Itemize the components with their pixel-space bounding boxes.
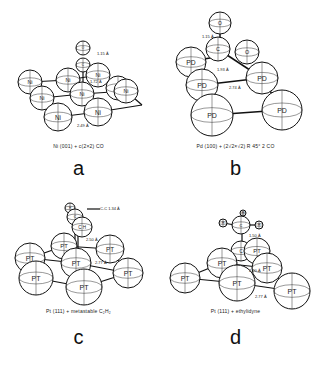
adsorbate-atom: C	[206, 37, 230, 61]
surface-atom: PT	[96, 235, 124, 263]
atom-label: PT	[80, 284, 90, 291]
atom-label: PD	[277, 107, 287, 114]
atom-label: O	[218, 21, 222, 26]
caption-d: Pt (111) + ethylidyne	[157, 308, 314, 314]
atoms-c: HCC HPTPTPTPTPTPTPT	[15, 203, 143, 305]
surface-atom: Ni	[84, 98, 112, 126]
distance-label: C-C 1.34 Å	[100, 206, 120, 211]
distance-label: 1.72 Å	[90, 79, 102, 84]
atom-label: Ni	[95, 72, 100, 78]
surface-atom: PT	[66, 269, 102, 305]
surface-atom: PT	[274, 273, 310, 309]
surface-atom: Ni	[44, 103, 72, 131]
atom-label: H	[258, 223, 260, 227]
caption-a: Ni (001) + c(2×2) CO	[0, 143, 157, 149]
atom-label: C	[240, 223, 243, 228]
atom-label: H	[69, 206, 71, 210]
adsorbate-atom: H	[255, 221, 263, 229]
atom-label: Ni	[39, 95, 44, 101]
caption-c: Pt (111) + metastable C₂H₂	[0, 308, 157, 314]
adsorbate-atom: O	[235, 40, 259, 64]
atom-label: O	[245, 49, 249, 55]
atom-label: PT	[181, 275, 190, 282]
atom-label: H	[242, 211, 244, 215]
atom-label: C H	[78, 225, 86, 230]
structure-c: HCC HPTPTPTPTPTPTPT C-C 1.34 Å 2.50 Å 2.…	[0, 183, 157, 313]
panel-letter-b: b	[157, 157, 314, 180]
distance-label: 2.50 Å	[86, 237, 98, 242]
atoms-b: OCOPDPDPDPDPD	[176, 12, 302, 136]
distance-label: 2.77 Å	[95, 260, 107, 265]
panel-a: OCNiNiNiNiNiNiNiNiNi 1.15 Å 1.72 Å 2.49 …	[0, 0, 157, 183]
atom-label: PT	[263, 265, 272, 272]
distance-label: 1.15 Å	[202, 34, 214, 39]
surface-atom: PT	[19, 261, 53, 295]
distance-label: 2.74 Å	[229, 85, 241, 90]
surface-atom: PT	[113, 258, 143, 288]
atom-label: PT	[72, 260, 81, 267]
distance-label: 1.93 Å	[217, 67, 229, 72]
atom-label: PT	[32, 275, 42, 282]
atom-label: PT	[233, 280, 243, 287]
adsorbate-atom: H	[240, 210, 246, 216]
atom-label: Ni	[65, 77, 70, 83]
distance-label: 1.15 Å	[97, 51, 109, 56]
atom-label: PT	[60, 243, 68, 249]
structure-b: OCOPDPDPDPDPD 1.15 Å 1.93 Å 2.74 Å	[157, 0, 314, 130]
adsorbate-atom: C	[232, 216, 250, 234]
panel-letter-d: d	[157, 326, 314, 349]
adsorbate-atom: O	[76, 41, 90, 55]
surface-atom: PD	[191, 94, 233, 136]
atom-label: Ni	[55, 114, 61, 121]
caption-b: Pd (100) + (2√2×√2) R 45° 2 CO	[157, 143, 314, 149]
atom-label: H	[222, 221, 224, 225]
atom-label: Ni	[27, 79, 32, 85]
atom-label: PT	[106, 246, 114, 253]
panel-c: HCC HPTPTPTPTPTPTPT C-C 1.34 Å 2.50 Å 2.…	[0, 183, 157, 366]
adsorbate-atom: H	[219, 219, 227, 227]
atom-label: PT	[253, 248, 261, 254]
adsorbate-atom: C H	[72, 217, 92, 237]
structure-a: OCNiNiNiNiNiNiNiNiNi 1.15 Å 1.72 Å 2.49 …	[0, 0, 157, 130]
surface-atom: PD	[246, 62, 278, 94]
atoms-a: OCNiNiNiNiNiNiNiNiNi	[18, 41, 138, 131]
structure-d: HHHCCPTPTPTPTPTPT 1.50 Å 2.00 Å 2.77 Å	[157, 183, 314, 313]
panel-b: OCOPDPDPDPDPD 1.15 Å 1.93 Å 2.74 Å Pd (1…	[157, 0, 314, 183]
surface-atom: PT	[170, 263, 200, 293]
surface-atom: Ni	[114, 79, 138, 103]
distance-label: 2.00 Å	[249, 268, 261, 273]
atom-label: PD	[186, 59, 196, 66]
panel-letter-a: a	[0, 157, 157, 180]
surface-atom: PD	[262, 90, 302, 130]
adsorbate-atom: O	[209, 12, 231, 34]
distance-label: 2.49 Å	[77, 123, 89, 128]
panel-letter-c: c	[0, 326, 157, 349]
atom-label: Ni	[123, 88, 128, 94]
atom-label: PD	[197, 82, 207, 89]
atom-label: PD	[257, 75, 267, 82]
atom-label: PT	[26, 255, 35, 262]
distance-label: 2.77 Å	[255, 294, 267, 299]
atom-label: PT	[288, 288, 298, 295]
atom-label: Ni	[79, 91, 84, 97]
distance-label: 1.50 Å	[249, 233, 261, 238]
atom-label: PT	[124, 270, 133, 277]
atoms-d: HHHCCPTPTPTPTPTPT	[170, 210, 310, 309]
atom-label: C	[216, 46, 220, 52]
panel-d: HHHCCPTPTPTPTPTPT 1.50 Å 2.00 Å 2.77 Å P…	[157, 183, 314, 366]
atom-label: PT	[218, 260, 227, 267]
atom-label: PD	[207, 112, 217, 119]
atom-label: Ni	[95, 109, 101, 116]
